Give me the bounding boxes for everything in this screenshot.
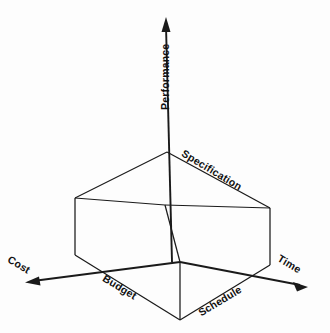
axis-label-performance: Performance bbox=[159, 44, 171, 110]
cube-bottom-face bbox=[75, 255, 270, 320]
cost-arrow-icon bbox=[25, 277, 41, 286]
time-arrow-icon bbox=[293, 282, 308, 292]
top-face-edge-back-left bbox=[75, 152, 167, 198]
diagram-canvas: Performance Specification Cost Time Budg… bbox=[0, 0, 330, 333]
performance-arrow-icon bbox=[162, 17, 171, 32]
top-face-edge-front-left bbox=[75, 198, 165, 205]
top-face-edge-front-right bbox=[165, 205, 270, 208]
